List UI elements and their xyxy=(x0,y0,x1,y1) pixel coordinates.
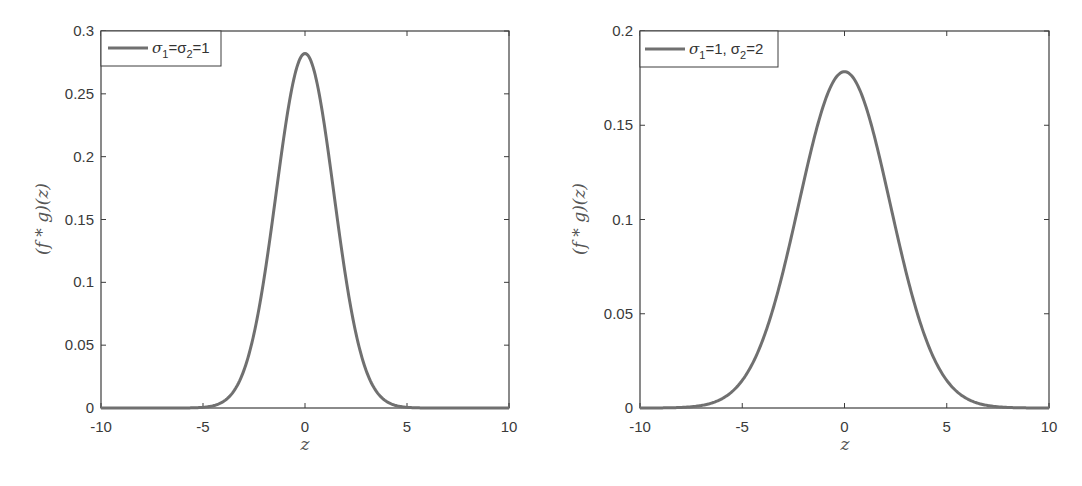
x-tick-label: -5 xyxy=(736,418,749,435)
y-tick-label: 0 xyxy=(86,399,94,416)
y-tick-label: 0.1 xyxy=(612,211,633,228)
right-legend: σ1=1, σ2=2 xyxy=(640,31,778,67)
y-tick-label: 0.2 xyxy=(73,148,94,165)
x-tick-label: -10 xyxy=(629,418,651,435)
x-tick-label: 5 xyxy=(943,418,951,435)
x-tick-label: -10 xyxy=(90,418,112,435)
figure: 00.050.10.150.20.250.3 -10-50510 σ1=σ2=1… xyxy=(0,0,1082,486)
right-y-ticks: 00.050.10.150.2 xyxy=(604,22,1049,416)
right-x-ticks: -10-50510 xyxy=(629,31,1057,435)
right-x-axis-label: z xyxy=(840,434,851,454)
left-y-axis-label: (f * g)(z) xyxy=(32,183,52,255)
y-tick-label: 0.05 xyxy=(65,336,94,353)
y-tick-label: 0.25 xyxy=(65,85,94,102)
y-tick-label: 0.15 xyxy=(65,211,94,228)
x-tick-label: 0 xyxy=(840,418,848,435)
x-tick-label: 10 xyxy=(1041,418,1058,435)
right-series-line xyxy=(640,72,1049,408)
y-tick-label: 0.05 xyxy=(604,305,633,322)
y-tick-label: 0 xyxy=(625,399,633,416)
right-axes-frame xyxy=(640,31,1049,408)
left-x-axis-label: z xyxy=(300,434,311,454)
left-legend: σ1=σ2=1 xyxy=(101,31,221,66)
left-x-ticks: -10-50510 xyxy=(90,31,517,435)
left-plot: 00.050.10.150.20.250.3 -10-50510 σ1=σ2=1… xyxy=(32,22,517,454)
left-y-ticks: 00.050.10.150.20.250.3 xyxy=(65,22,509,416)
x-tick-label: 5 xyxy=(403,418,411,435)
x-tick-label: -5 xyxy=(196,418,209,435)
left-axes-frame xyxy=(101,31,509,408)
y-tick-label: 0.3 xyxy=(73,22,94,39)
right-y-axis-label: (f * g)(z) xyxy=(569,183,589,255)
x-tick-label: 10 xyxy=(501,418,518,435)
x-tick-label: 0 xyxy=(301,418,309,435)
y-tick-label: 0.2 xyxy=(612,22,633,39)
left-series-line xyxy=(101,54,509,409)
y-tick-label: 0.1 xyxy=(73,273,94,290)
right-plot: 00.050.10.150.2 -10-50510 σ1=1, σ2=2 (f … xyxy=(569,22,1057,454)
y-tick-label: 0.15 xyxy=(604,116,633,133)
